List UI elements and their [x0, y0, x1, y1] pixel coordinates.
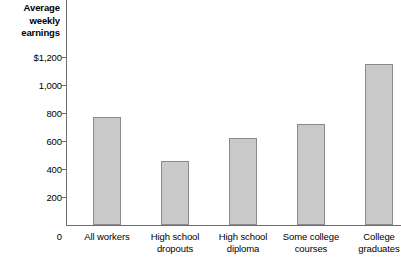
y-axis-title-line-1: Average	[0, 2, 60, 15]
y-tick-label-1000: 1,000	[2, 81, 62, 91]
y-tick-mark	[62, 169, 67, 170]
y-tick-label-400: 400	[2, 165, 62, 175]
bar-chart: Average weekly earnings 0 2004006008001,…	[0, 0, 401, 259]
y-axis-title-line-3: earnings	[0, 27, 60, 40]
plot-area: 2004006008001,000$1,200 All workersHigh …	[66, 0, 401, 226]
y-tick-mark	[62, 197, 67, 198]
x-axis-line	[66, 225, 401, 226]
bar	[297, 124, 325, 226]
bar	[229, 138, 257, 225]
bar	[93, 117, 121, 225]
y-axis-title: Average weekly earnings	[0, 2, 60, 40]
y-tick-label-800: 800	[2, 109, 62, 119]
bar	[161, 161, 189, 225]
bar	[365, 64, 393, 225]
x-axis-label-line: graduates	[336, 243, 401, 255]
y-tick-label-200: 200	[2, 193, 62, 203]
y-tick-mark	[62, 141, 67, 142]
x-axis-label: Collegegraduates	[336, 231, 401, 254]
y-tick-label-1200: $1,200	[2, 53, 62, 63]
y-tick-mark	[62, 57, 67, 58]
y-tick-label-0: 0	[44, 232, 62, 242]
y-tick-label-600: 600	[2, 137, 62, 147]
y-axis-title-line-2: weekly	[0, 15, 60, 28]
y-tick-mark	[62, 113, 67, 114]
y-tick-mark	[62, 85, 67, 86]
x-axis-label-line: College	[336, 231, 401, 243]
